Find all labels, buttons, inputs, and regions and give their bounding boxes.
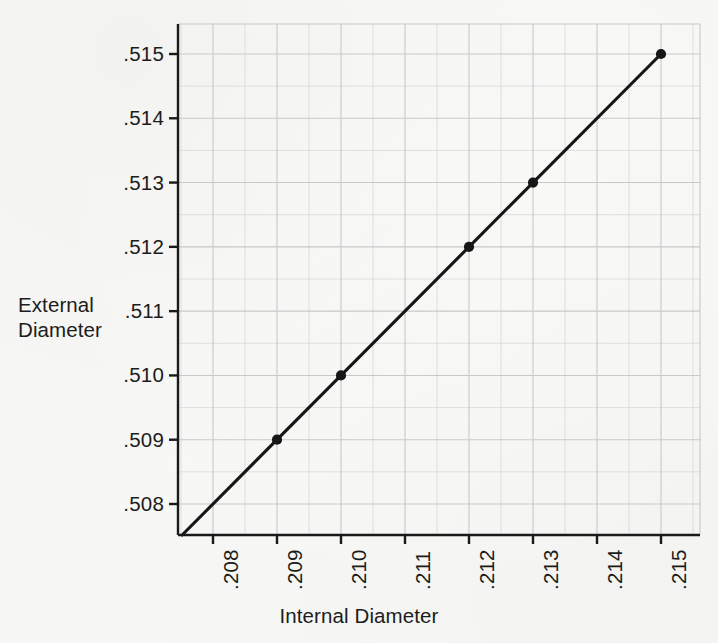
x-tick-label: .211: [413, 551, 434, 590]
y-tick-label: .514: [90, 108, 164, 129]
x-tick-label: .208: [221, 549, 242, 590]
data-point-marker[interactable]: [656, 49, 666, 59]
y-tick-label: .508: [90, 494, 164, 515]
y-tick-label: .509: [90, 430, 164, 451]
x-tick-label: .210: [349, 549, 370, 590]
data-line: [182, 54, 661, 535]
x-tick-label: .215: [669, 549, 690, 590]
data-series: [182, 49, 666, 535]
y-tick-label: .511: [90, 301, 164, 322]
data-point-marker[interactable]: [336, 370, 346, 380]
x-tick-label: .213: [541, 549, 562, 590]
y-tick-label: .513: [90, 173, 164, 194]
x-axis-title: Internal Diameter: [0, 604, 718, 628]
data-point-marker[interactable]: [464, 242, 474, 252]
y-tick-label: .512: [90, 237, 164, 258]
x-tick-label: .212: [477, 549, 498, 590]
chart-figure: External Diameter .508.509.510.511.512.5…: [0, 0, 718, 643]
x-tick-label: .214: [605, 549, 626, 590]
y-tick-label: .515: [90, 44, 164, 65]
y-tick-label: .510: [90, 365, 164, 386]
x-tick-label: .209: [285, 549, 306, 590]
data-point-marker[interactable]: [528, 177, 538, 187]
data-point-marker[interactable]: [272, 435, 282, 445]
